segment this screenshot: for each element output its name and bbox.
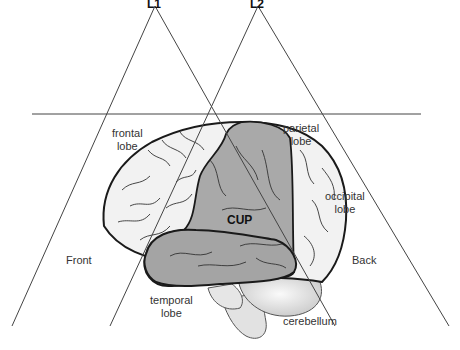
label-frontal-line1: frontal <box>112 127 143 140</box>
label-L1: L1 <box>147 0 161 11</box>
label-frontal-line2: lobe <box>112 140 143 153</box>
label-occipital-line2: lobe <box>325 203 365 216</box>
label-cup: CUP <box>227 214 252 227</box>
label-cerebellum: cerebellum <box>283 315 337 328</box>
label-occipital-line1: occipital <box>325 190 365 203</box>
label-temporal-line1: temporal <box>150 294 193 307</box>
label-temporal-lobe: temporal lobe <box>150 294 193 320</box>
brain-diagram <box>0 0 460 350</box>
label-back: Back <box>352 254 376 267</box>
label-front: Front <box>66 254 92 267</box>
label-parietal-lobe: parietal lobe <box>283 122 319 148</box>
label-occipital-lobe: occipital lobe <box>325 190 365 216</box>
label-L2: L2 <box>250 0 264 11</box>
pons <box>208 284 242 309</box>
label-parietal-line2: lobe <box>283 135 319 148</box>
label-temporal-line2: lobe <box>150 307 193 320</box>
label-frontal-lobe: frontal lobe <box>112 127 143 153</box>
label-parietal-line1: parietal <box>283 122 319 135</box>
